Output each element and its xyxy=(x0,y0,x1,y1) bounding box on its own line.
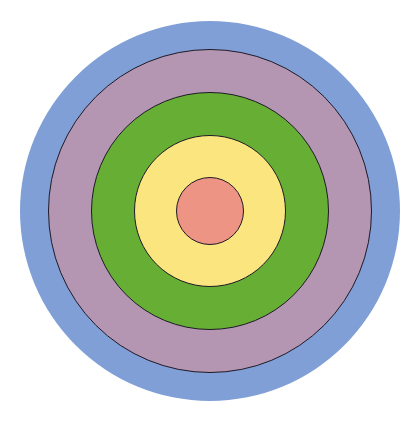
concentric-target-diagram xyxy=(0,0,407,421)
red-center-circle xyxy=(176,177,244,245)
